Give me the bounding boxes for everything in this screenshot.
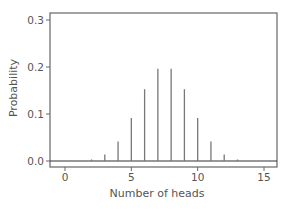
x-tick-label: 5 bbox=[128, 171, 135, 183]
y-axis-label: Probability bbox=[7, 58, 20, 117]
binomial-probability-chart: 0510150.00.10.20.3 Number of heads Proba… bbox=[0, 0, 290, 210]
y-tick-label: 0.2 bbox=[27, 61, 44, 73]
y-tick-label: 0.3 bbox=[27, 14, 44, 26]
x-axis-label: Number of heads bbox=[110, 187, 205, 200]
y-tick-label: 0.0 bbox=[27, 155, 44, 167]
x-tick-label: 10 bbox=[191, 171, 204, 183]
probability-spikes bbox=[92, 69, 238, 161]
x-tick-label: 0 bbox=[62, 171, 69, 183]
plot-frame bbox=[50, 13, 277, 167]
y-tick-label: 0.1 bbox=[27, 108, 44, 120]
x-tick-label: 15 bbox=[257, 171, 270, 183]
axis-ticks: 0510150.00.10.20.3 bbox=[27, 14, 270, 183]
